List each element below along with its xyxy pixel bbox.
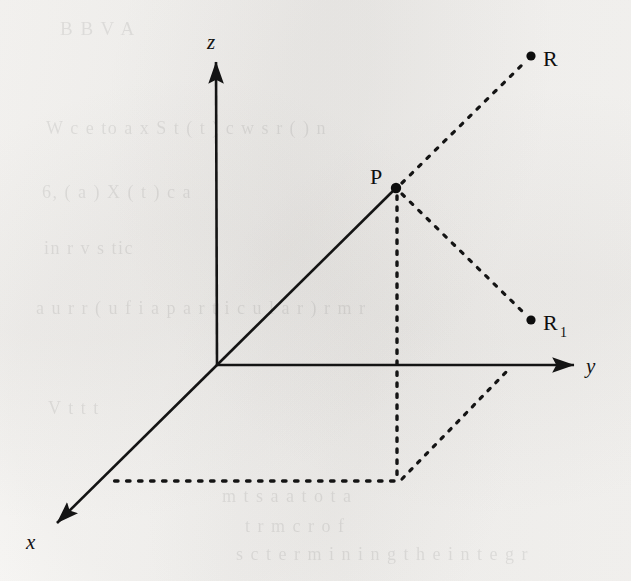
coordinate-axes-diagram: z y x P R R 1	[0, 0, 631, 581]
point-r1-label: R	[543, 310, 558, 335]
point-r1-label-group: R 1	[543, 310, 567, 340]
point-dots-group	[391, 51, 536, 324]
axes-group	[57, 62, 574, 523]
point-r1-subscript: 1	[560, 325, 567, 340]
point-r-label: R	[543, 46, 558, 71]
point-r-dot	[526, 51, 535, 60]
segment-foot-to-y-axis	[402, 367, 511, 479]
segment-origin-to-p	[217, 188, 396, 365]
point-p-dot	[391, 183, 401, 193]
x-axis-line	[57, 365, 217, 523]
z-axis-label: z	[206, 30, 215, 54]
segment-p-to-r1	[402, 194, 526, 315]
point-p-label: P	[370, 164, 382, 189]
z-axis-line	[216, 62, 217, 365]
dotted-segments-group	[106, 60, 527, 481]
x-axis-label: x	[25, 530, 36, 554]
segment-p-to-r	[402, 60, 527, 183]
point-r1-dot	[526, 315, 535, 324]
figure-root: B B V AW c e to a x S t ( t ) c w s r ( …	[0, 0, 631, 581]
y-axis-label: y	[584, 354, 596, 378]
